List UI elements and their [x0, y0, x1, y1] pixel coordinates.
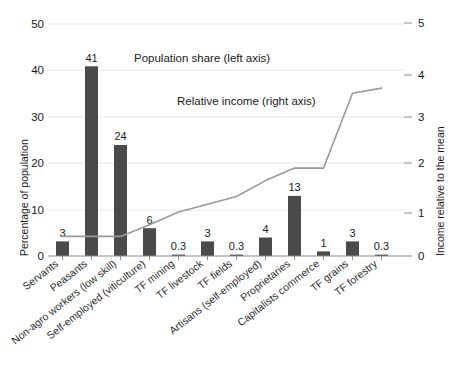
legend-label-relative-income: Relative income (right axis)	[177, 95, 316, 107]
y-axis-left-title: Percentage of population	[18, 139, 30, 256]
bar-value-label: 0.3	[171, 240, 186, 252]
bar-value-labels: 3 41 24 6 0.3 3 0.3 4 13 1 3 0.3	[59, 52, 389, 252]
bar-value-label: 4	[262, 223, 268, 235]
bar-value-label: 3	[204, 227, 210, 239]
bar-proprietaries	[288, 196, 301, 256]
bar-value-label: 3	[59, 227, 65, 239]
bar-capitalists-commerce	[317, 251, 330, 256]
bar-value-label: 13	[288, 181, 300, 193]
y-tick-label: 30	[31, 111, 44, 123]
bar-value-label: 0.3	[374, 240, 389, 252]
legend-label-population-share: Population share (left axis)	[134, 52, 270, 64]
y-tick-label: 10	[31, 204, 44, 216]
y-tick-label: 50	[31, 18, 44, 30]
bar-artisans	[259, 238, 272, 257]
bar-value-label: 41	[85, 52, 97, 64]
legend: Population share (left axis) Relative in…	[134, 52, 316, 107]
bar-value-label: 0.3	[229, 240, 244, 252]
y-tick-label: 20	[31, 157, 44, 169]
bar-peasants	[85, 66, 98, 256]
y-axis-right-title: Income relative to the mean	[434, 126, 446, 256]
x-axis-category-labels: Servants Peasants Non-agro workers (low …	[9, 257, 380, 347]
bar-non-agro-workers	[114, 145, 127, 256]
chart-container: 50 40 30 20 10 0 Percentage of populatio…	[0, 0, 459, 391]
bar-value-label: 24	[114, 130, 126, 142]
bar-value-label: 1	[320, 237, 326, 249]
bar-servants	[56, 241, 69, 256]
y-tick-label: 0	[38, 250, 44, 262]
y2-tick-label: 3	[418, 111, 424, 123]
y2-tick-label: 4	[418, 69, 425, 81]
y2-tick-label: 0	[418, 250, 424, 262]
bar-tf-livestock	[201, 241, 214, 256]
bar-tf-grains	[346, 241, 359, 256]
y-axis-right: 5 4 3 2 1 0 Income relative to the mean	[404, 17, 446, 262]
y-axis-left: 50 40 30 20 10 0 Percentage of populatio…	[18, 18, 44, 262]
y-tick-label: 40	[31, 64, 44, 76]
y2-tick-label: 2	[418, 157, 424, 169]
bar-value-label: 3	[349, 227, 355, 239]
bar-self-employed-viticulture	[143, 228, 156, 256]
dual-axis-chart: 50 40 30 20 10 0 Percentage of populatio…	[0, 0, 459, 391]
relative-income-line	[63, 88, 382, 236]
y2-tick-label: 5	[418, 17, 424, 29]
y2-tick-label: 1	[418, 207, 424, 219]
